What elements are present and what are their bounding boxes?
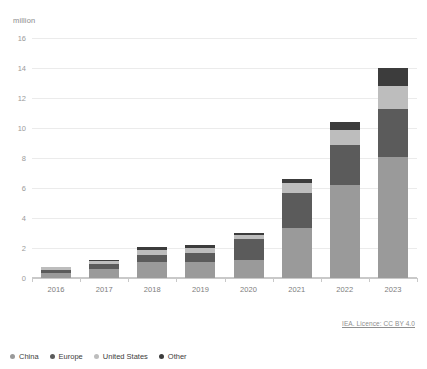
bar-segment[interactable] xyxy=(378,86,408,109)
bar-segment[interactable] xyxy=(234,239,264,260)
x-axis-tick-label: 2023 xyxy=(384,285,401,300)
x-axis-tick-mark xyxy=(176,278,177,282)
x-axis-slot: 2017 xyxy=(80,278,128,300)
y-axis-tick-label: 10 xyxy=(18,124,26,133)
legend-swatch-icon xyxy=(159,354,164,359)
bar-segment[interactable] xyxy=(378,109,408,157)
ev-sales-stacked-bar-chart: million 0246810121416 201620172018201920… xyxy=(0,0,427,369)
bar-segment[interactable] xyxy=(330,122,360,130)
bar-slot-2018 xyxy=(128,38,176,278)
y-axis-tick-label: 8 xyxy=(22,154,26,163)
bar-segment[interactable] xyxy=(330,130,360,145)
y-axis-unit-label: million xyxy=(13,16,35,25)
bar-segment[interactable] xyxy=(378,157,408,279)
x-axis-tick-mark xyxy=(273,278,274,282)
bar-segment[interactable] xyxy=(330,145,360,186)
stacked-bar[interactable] xyxy=(378,68,408,278)
stacked-bar[interactable] xyxy=(282,179,312,278)
y-axis-tick-label: 2 xyxy=(22,244,26,253)
bar-segment[interactable] xyxy=(234,260,264,278)
x-axis-tick-mark xyxy=(417,278,418,282)
x-axis-tick-label: 2016 xyxy=(48,285,65,300)
x-axis-tick-label: 2019 xyxy=(192,285,209,300)
bar-segment[interactable] xyxy=(185,253,215,262)
bar-segment[interactable] xyxy=(378,68,408,86)
bar-slot-2019 xyxy=(176,38,224,278)
legend-label: China xyxy=(19,352,39,361)
bar-segment[interactable] xyxy=(89,269,119,278)
bar-slot-2017 xyxy=(80,38,128,278)
bar-slot-2016 xyxy=(32,38,80,278)
y-axis-tick-label: 14 xyxy=(18,64,26,73)
bar-slot-2023 xyxy=(369,38,417,278)
legend-swatch-icon xyxy=(50,354,55,359)
x-axis-slot: 2023 xyxy=(369,278,417,300)
x-axis-slot: 2020 xyxy=(225,278,273,300)
stacked-bar[interactable] xyxy=(185,245,215,278)
legend-item[interactable]: China xyxy=(10,352,39,361)
bar-slot-2022 xyxy=(321,38,369,278)
x-axis-tick-label: 2021 xyxy=(288,285,305,300)
legend-label: Other xyxy=(168,352,187,361)
bar-segment[interactable] xyxy=(137,262,167,279)
x-axis-tick-label: 2017 xyxy=(96,285,113,300)
legend-item[interactable]: United States xyxy=(94,352,148,361)
stacked-bar[interactable] xyxy=(330,122,360,278)
x-axis-slot: 2022 xyxy=(321,278,369,300)
x-axis-tick-mark xyxy=(369,278,370,282)
bar-segment[interactable] xyxy=(282,193,312,228)
stacked-bar[interactable] xyxy=(234,233,264,278)
stacked-bar[interactable] xyxy=(41,267,71,278)
stacked-bar[interactable] xyxy=(137,247,167,278)
x-axis-tick-mark xyxy=(321,278,322,282)
x-axis-tick-mark xyxy=(128,278,129,282)
x-axis-tick-label: 2018 xyxy=(144,285,161,300)
x-axis-slot: 2021 xyxy=(273,278,321,300)
y-axis-tick-label: 0 xyxy=(22,274,26,283)
legend-item[interactable]: Other xyxy=(159,352,187,361)
legend-label: Europe xyxy=(59,352,83,361)
y-axis-tick-label: 4 xyxy=(22,214,26,223)
bar-slot-2021 xyxy=(273,38,321,278)
licence-credit-link[interactable]: IEA. Licence: CC BY 4.0 xyxy=(342,320,415,327)
y-axis-tick-label: 16 xyxy=(18,34,26,43)
bar-slot-2020 xyxy=(225,38,273,278)
x-axis-tick-mark xyxy=(225,278,226,282)
x-axis-slot: 2016 xyxy=(32,278,80,300)
bar-segment[interactable] xyxy=(330,185,360,278)
x-axis-tick-mark xyxy=(80,278,81,282)
x-axis-slot: 2019 xyxy=(176,278,224,300)
legend-label: United States xyxy=(103,352,148,361)
x-axis-tick-labels: 20162017201820192020202120222023 xyxy=(32,278,417,300)
bar-segment[interactable] xyxy=(282,228,312,278)
x-axis-slot: 2018 xyxy=(128,278,176,300)
x-axis-tick-mark xyxy=(32,278,33,282)
y-axis-tick-label: 6 xyxy=(22,184,26,193)
x-axis-tick-label: 2022 xyxy=(336,285,353,300)
plot-area: 0246810121416 xyxy=(32,38,417,278)
stacked-bar[interactable] xyxy=(89,260,119,278)
chart-legend: ChinaEuropeUnited StatesOther xyxy=(10,352,187,361)
legend-swatch-icon xyxy=(94,354,99,359)
y-axis-tick-label: 12 xyxy=(18,94,26,103)
bar-segment[interactable] xyxy=(282,183,312,193)
x-axis-tick-label: 2020 xyxy=(240,285,257,300)
legend-item[interactable]: Europe xyxy=(50,352,83,361)
bar-segment[interactable] xyxy=(185,262,215,279)
legend-swatch-icon xyxy=(10,354,15,359)
bar-group xyxy=(32,38,417,278)
